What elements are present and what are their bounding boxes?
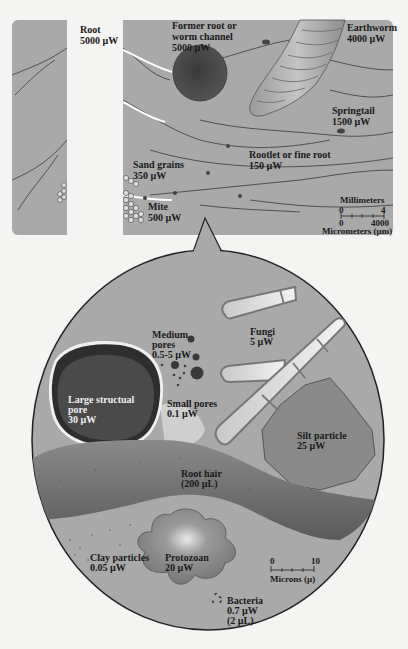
label-earthworm: Earthworm [347, 22, 398, 33]
value-sand: 350 µW [133, 170, 166, 181]
value-silt: 25 µW [297, 440, 325, 451]
former-channel [173, 45, 227, 101]
label-channel-1: Former root or [172, 20, 237, 31]
label-rootlet: Rootlet or fine root [249, 149, 331, 160]
root-gap [67, 20, 123, 235]
value-root: 5000 µW [80, 35, 118, 46]
scale-title-um: Micrometers (µm) [322, 226, 392, 236]
micron-scale-min: 0 [270, 556, 275, 566]
value-protozoan: 20 µW [165, 562, 193, 573]
magnified-circle: Medium pores 0.5-5 µW Fungi 5 µW Large s… [30, 218, 384, 630]
label-mite: Mite [148, 201, 169, 212]
scale-title-mm: Millimeters [340, 195, 385, 205]
label-channel-2: worm channel [172, 31, 233, 42]
scale-mm-max: 4 [381, 205, 386, 215]
label-springtail: Springtail [332, 105, 375, 116]
value-root-hair: (200 µL) [181, 478, 218, 490]
value-medium-pores: 0.5-5 µW [152, 349, 191, 360]
label-root: Root [80, 24, 101, 35]
value-channel: 5000 µW [172, 42, 210, 53]
value-bacteria-2: (2 µL) [227, 615, 254, 627]
value-clay: 0.05 µW [90, 562, 126, 573]
value-rootlet: 150 µW [249, 160, 282, 171]
value-mite: 500 µW [148, 212, 181, 223]
micron-scale-title: Microns (µ) [270, 574, 315, 584]
scale-mm-min: 0 [339, 205, 344, 215]
micron-scale-max: 10 [311, 556, 321, 566]
value-springtail: 1500 µW [332, 116, 370, 127]
value-small-pores: 0.1 µW [167, 408, 198, 419]
soil-organisms-diagram: Root 5000 µW Former root or worm channel… [0, 0, 408, 649]
value-large-pore: 30 µW [68, 414, 96, 425]
top-panel: Root 5000 µW Former root or worm channel… [12, 20, 398, 236]
value-fungi: 5 µW [250, 336, 273, 347]
label-sand: Sand grains [133, 159, 184, 170]
value-earthworm: 4000 µW [347, 33, 385, 44]
